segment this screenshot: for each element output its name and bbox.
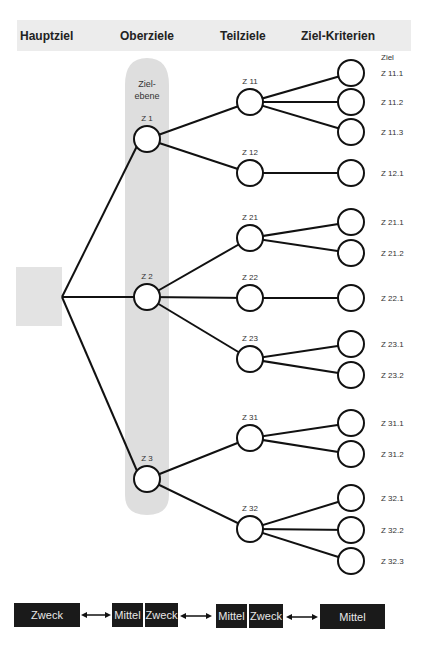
edge-teilziel-kriterium [250, 529, 351, 561]
teilziel-node [237, 425, 263, 451]
teilziel-node [237, 225, 263, 251]
header-hauptziel: Hauptziel [20, 29, 73, 43]
kriterium-node [338, 331, 364, 357]
teilziel-label: Z 22 [242, 273, 259, 282]
kriterium-node [338, 485, 364, 511]
kriterium-label: Z 31.1 [381, 419, 404, 428]
teilziel-label: Z 23 [242, 334, 259, 343]
kriterium-node [338, 410, 364, 436]
edge-teilziel-kriterium [250, 498, 351, 529]
teilziel-node [237, 89, 263, 115]
edges [62, 73, 351, 561]
kriterium-label: Z 32.3 [381, 557, 404, 566]
footer-label: Zweck [146, 609, 178, 621]
edge-teilziel-kriterium [250, 529, 351, 530]
kriterium-label: Z 11.1 [381, 69, 404, 78]
criteria-column-header: Ziel [381, 53, 394, 62]
footer-label: Mittel [218, 610, 244, 622]
oberziel-label: Z 3 [141, 454, 153, 463]
oberziel-node [134, 284, 160, 310]
footer-label: Zweck [250, 610, 282, 622]
teilziel-label: Z 32 [242, 504, 259, 513]
kriterium-label: Z 11.3 [381, 128, 404, 137]
kriterium-node [338, 548, 364, 574]
teilziel-node [237, 516, 263, 542]
edge-teilziel-kriterium [250, 438, 351, 454]
kriterium-label: Z 23.2 [381, 371, 404, 380]
ziel-ebene-label-1: Ziel- [138, 79, 156, 89]
kriterium-label: Z 21.1 [381, 218, 404, 227]
kriterium-label: Z 21.2 [381, 249, 404, 258]
goal-hierarchy-diagram: Hauptziel Oberziele Teilziele Ziel-Krite… [0, 0, 426, 651]
kriterium-node [338, 209, 364, 235]
teilziel-node [237, 346, 263, 372]
teilziel-label: Z 21 [242, 213, 259, 222]
oberziel-label: Z 1 [141, 114, 153, 123]
arrow-head-left-icon [180, 613, 186, 619]
arrow-head-right-icon [206, 613, 212, 619]
edge-oberziel-teilziel [147, 297, 250, 298]
teilziel-label: Z 12 [242, 148, 259, 157]
oberziel-label: Z 2 [141, 272, 153, 281]
oberziel-node [134, 126, 160, 152]
kriterium-label: Z 31.2 [381, 450, 404, 459]
header-oberziele: Oberziele [120, 29, 174, 43]
edge-teilziel-kriterium [250, 359, 351, 375]
kriterium-label: Z 32.1 [381, 494, 404, 503]
footer-label: Mittel [114, 609, 140, 621]
header-teilziele: Teilziele [220, 29, 266, 43]
edge-teilziel-kriterium [250, 423, 351, 438]
teilziel-node [237, 160, 263, 186]
kriterium-label: Z 32.2 [381, 526, 404, 535]
kriterium-node [338, 60, 364, 86]
footer-label: Zweck [31, 609, 63, 621]
edge-teilziel-kriterium [250, 102, 351, 132]
zweck-mittel-chain: Zweck Mittel Zweck Mittel Zweck Mittel [14, 603, 385, 629]
kriterium-label: Z 22.1 [381, 294, 404, 303]
ziel-ebene-label-2: ebene [134, 91, 159, 101]
edge-teilziel-kriterium [250, 222, 351, 238]
kriterium-node [338, 160, 364, 186]
arrow-head-left-icon [286, 614, 292, 620]
edge-teilziel-kriterium [250, 344, 351, 359]
kriterium-label: Z 12.1 [381, 169, 404, 178]
edge-teilziel-kriterium [250, 73, 351, 102]
kriterium-label: Z 11.2 [381, 98, 404, 107]
edge-teilziel-kriterium [250, 238, 351, 253]
kriterium-label: Z 23.1 [381, 340, 404, 349]
arrow-head-right-icon [312, 614, 318, 620]
teilziel-label: Z 31 [242, 413, 259, 422]
kriterium-node [338, 285, 364, 311]
hauptziel-box [16, 267, 62, 326]
kriterium-node [338, 89, 364, 115]
kriterium-node [338, 441, 364, 467]
arrow-head-left-icon [81, 612, 87, 618]
header-ziel-kriterien: Ziel-Kriterien [301, 29, 375, 43]
arrow-head-right-icon [105, 612, 111, 618]
teilziel-label: Z 11 [242, 77, 258, 86]
kriterium-node [338, 119, 364, 145]
kriterium-node [338, 517, 364, 543]
teilziel-node [237, 285, 263, 311]
footer-label: Mittel [339, 611, 365, 623]
kriterium-node [338, 240, 364, 266]
oberziel-node [134, 466, 160, 492]
kriterium-node [338, 362, 364, 388]
